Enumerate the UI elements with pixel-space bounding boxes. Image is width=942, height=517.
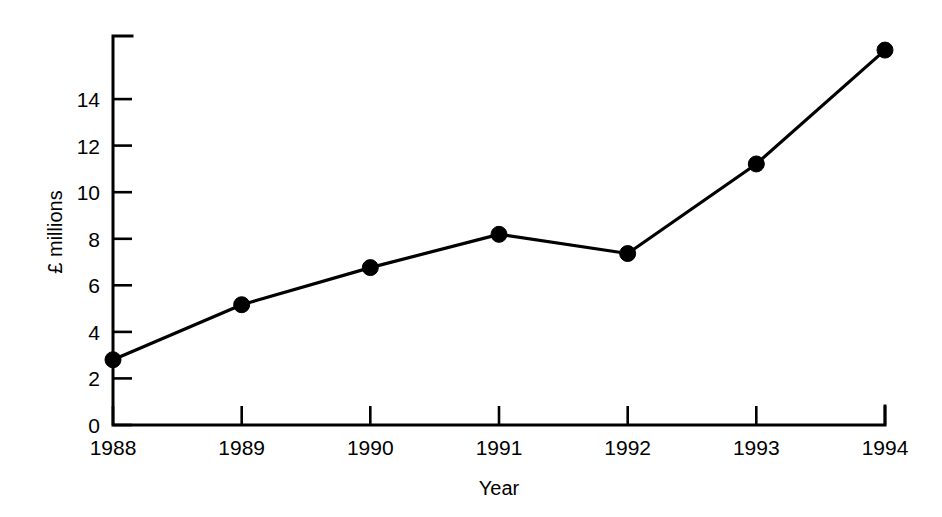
y-tick-label-10: 10 — [77, 181, 100, 204]
x-axis-title: Year — [479, 477, 520, 499]
data-point-1990 — [362, 260, 378, 276]
x-tick-label-1991: 1991 — [476, 436, 523, 459]
data-point-1992 — [620, 246, 636, 262]
chart-canvas: 0 2 4 6 8 10 12 14 £ millions 1988 1989 … — [0, 0, 942, 517]
data-point-1988 — [105, 352, 121, 368]
x-tick-label-1993: 1993 — [733, 436, 780, 459]
y-tick-label-12: 12 — [77, 135, 100, 158]
y-tick-label-14: 14 — [77, 88, 101, 111]
y-tick-label-6: 6 — [88, 274, 100, 297]
x-tick-label-1994: 1994 — [862, 436, 909, 459]
y-tick-label-8: 8 — [88, 228, 100, 251]
line-chart: 0 2 4 6 8 10 12 14 £ millions 1988 1989 … — [0, 0, 942, 517]
data-point-1994 — [877, 42, 893, 58]
chart-background — [0, 0, 942, 517]
x-tick-label-1989: 1989 — [218, 436, 265, 459]
y-axis-title: £ millions — [44, 190, 66, 273]
x-tick-label-1990: 1990 — [347, 436, 394, 459]
data-point-1989 — [234, 297, 250, 313]
data-point-1993 — [748, 156, 764, 172]
x-tick-label-1992: 1992 — [604, 436, 651, 459]
y-tick-label-4: 4 — [88, 321, 100, 344]
y-tick-label-2: 2 — [88, 367, 100, 390]
y-tick-label-0: 0 — [88, 414, 100, 437]
data-point-1991 — [491, 226, 507, 242]
x-tick-label-1988: 1988 — [90, 436, 137, 459]
